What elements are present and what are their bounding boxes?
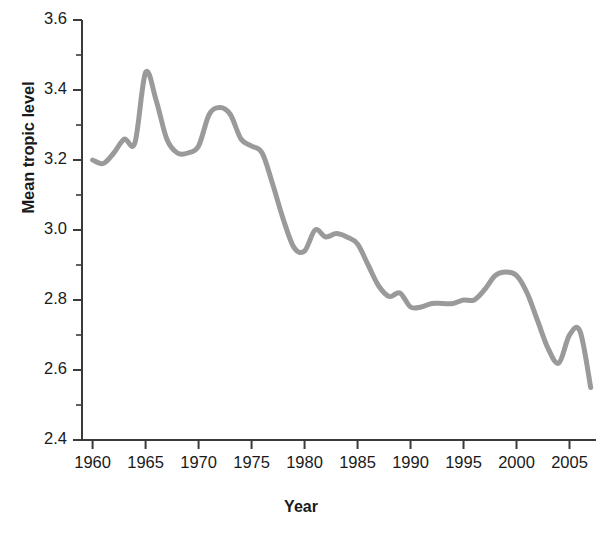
y-axis-major-ticks	[73, 20, 82, 440]
x-axis-title: Year	[0, 498, 602, 516]
x-axis-major-ticks	[93, 440, 570, 449]
y-tick-label: 2.6	[11, 359, 67, 378]
chart-figure: 2.42.62.83.03.23.43.6 196019651970197519…	[0, 0, 602, 533]
y-tick-label: 2.8	[11, 289, 67, 308]
axes-lines	[82, 20, 596, 440]
y-axis-title: Mean tropic level	[19, 28, 38, 268]
y-tick-label: 2.4	[11, 429, 67, 448]
x-tick-label: 2005	[535, 453, 602, 472]
series-line-mean-tropic-level	[93, 71, 591, 387]
y-tick-label: 3.6	[11, 9, 67, 28]
data-series-group	[93, 71, 591, 387]
